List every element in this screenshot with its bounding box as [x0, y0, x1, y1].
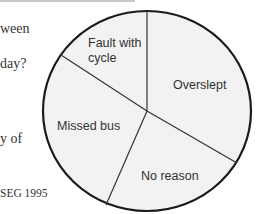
slice-label-no-reason: No reason	[141, 169, 199, 183]
slice-label-fault-line1: Fault with	[88, 36, 142, 50]
slice-label-missed-bus: Missed bus	[57, 119, 120, 133]
pie-chart: Fault with cycle Overslept Missed bus No…	[0, 0, 258, 214]
slice-label-overslept: Overslept	[173, 78, 227, 92]
slice-label-fault-line2: cycle	[88, 51, 117, 65]
